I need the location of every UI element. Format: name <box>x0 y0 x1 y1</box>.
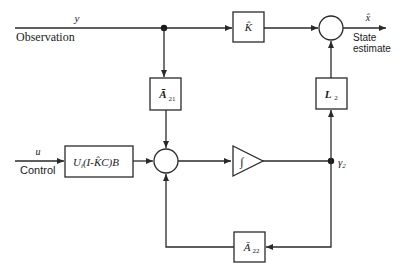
k-hat-label: K̂ <box>244 21 253 33</box>
integrator-block: ∫ <box>233 146 263 176</box>
observation-symbol: y <box>74 12 80 24</box>
observation-label: Observation <box>16 30 75 44</box>
l2-subscript: 2 <box>334 94 338 102</box>
control-gain-label: Ui(I-K̂C)B <box>73 156 119 170</box>
control-gain-block: Ui(I-K̂C)B <box>65 146 133 177</box>
a22-label: Ā <box>243 241 251 253</box>
output-summing-junction <box>319 16 343 40</box>
control-label: Control <box>20 164 55 176</box>
middle-summing-junction <box>154 149 178 173</box>
a22-block: Ā 22 <box>234 232 265 262</box>
k-hat-block: K̂ <box>233 12 264 42</box>
output-symbol: x̂ <box>365 12 371 23</box>
a21-label: Ā <box>158 88 166 100</box>
a21-block: Ā 21 <box>150 78 181 110</box>
output-label-line2: estimate <box>353 43 391 54</box>
output-label-line1: State <box>353 32 377 43</box>
control-signal: u Control <box>15 146 64 176</box>
integrator-label: ∫ <box>239 155 244 169</box>
l2-label: L <box>324 88 332 100</box>
block-diagram: y Observation K̂ x̂ State estimate Ā 21 … <box>0 0 409 276</box>
state-estimate-output: x̂ State estimate <box>343 12 391 54</box>
l2-block: L 2 <box>316 78 347 109</box>
a21-subscript: 21 <box>169 95 177 103</box>
a22-subscript: 22 <box>253 247 261 255</box>
gamma2-label: γ2 <box>338 156 346 170</box>
observation-signal: y Observation <box>15 12 232 44</box>
control-symbol: u <box>36 146 41 157</box>
